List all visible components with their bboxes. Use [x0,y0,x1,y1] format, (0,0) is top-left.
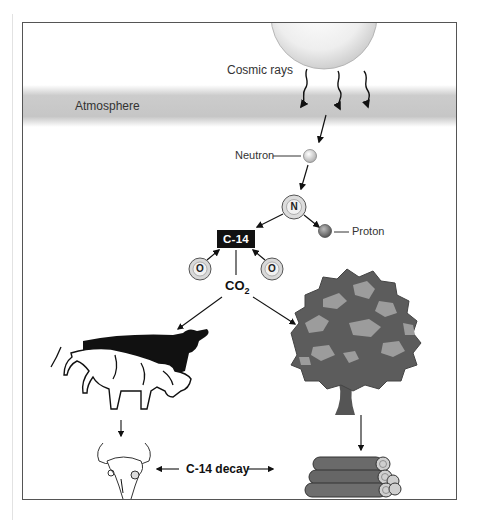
neutron-label: Neutron [235,149,274,161]
diagram-artwork [23,23,457,500]
oxygen-left-label: O [190,263,210,274]
nitrogen-label: N [284,201,304,212]
proton-label: Proton [352,225,384,237]
diagram-frame: Cosmic rays Atmosphere Neutron N Proton … [22,22,457,500]
c14-decay-label: C-14 decay [186,462,249,476]
c14-label: C-14 [223,233,249,245]
atmosphere-label: Atmosphere [75,99,140,113]
skull-icon [98,443,151,500]
co2-label: CO2 [225,278,250,296]
neutron-icon [304,150,317,163]
tree-icon [291,269,421,415]
c14-box: C-14 [217,230,255,248]
oxygen-right-label: O [262,263,282,274]
co2-subscript: 2 [245,286,250,296]
logs-icon [305,457,401,497]
page-margin-line [12,14,13,520]
cosmic-rays-label: Cosmic rays [227,63,293,77]
cattle-icon [51,329,209,409]
co2-main-text: CO [225,278,245,293]
proton-icon [319,225,332,238]
